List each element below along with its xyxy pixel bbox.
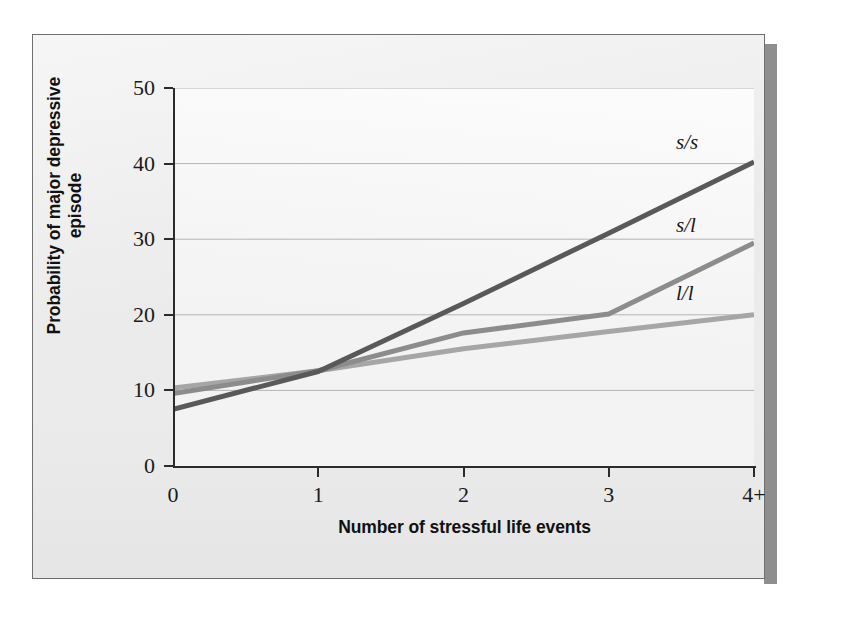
y-axis-tick-label: 10 <box>109 377 155 403</box>
y-axis-tick <box>164 389 173 391</box>
y-axis-tick <box>164 163 173 165</box>
gridlines-group <box>173 88 754 390</box>
x-axis-tick-label: 3 <box>584 482 634 508</box>
x-axis-tick-label: 4+ <box>729 482 779 508</box>
figure-panel: 01020304050 01234+ s/ss/ll/l Probability… <box>32 34 765 579</box>
series-label-l-l: l/l <box>676 281 694 306</box>
y-axis-tick-label: 50 <box>109 75 155 101</box>
x-axis-tick <box>463 468 465 477</box>
plot-area <box>173 88 754 466</box>
figure-root: 01020304050 01234+ s/ss/ll/l Probability… <box>0 0 853 626</box>
series-label-s-l: s/l <box>676 213 696 238</box>
y-axis-tick <box>164 465 173 467</box>
plot-lines-svg <box>173 88 754 466</box>
x-axis-tick <box>317 468 319 477</box>
x-axis-end-tick <box>753 468 755 477</box>
x-axis-tick-label: 2 <box>439 482 489 508</box>
y-axis-tick-label: 40 <box>109 151 155 177</box>
y-axis-tick <box>164 238 173 240</box>
series-label-s-s: s/s <box>676 130 698 155</box>
x-axis-title: Number of stressful life events <box>173 517 756 538</box>
y-axis-tick <box>164 314 173 316</box>
x-axis-line <box>173 466 756 468</box>
y-axis-tick-label: 0 <box>109 453 155 479</box>
x-axis-tick-label: 0 <box>148 482 198 508</box>
series-group <box>173 162 754 409</box>
series-line-s-l <box>173 243 754 393</box>
y-axis-tick-label: 30 <box>109 226 155 252</box>
x-axis-tick <box>608 468 610 477</box>
y-axis-tick-label: 20 <box>109 302 155 328</box>
y-axis-line <box>173 88 175 467</box>
series-line-l-l <box>173 315 754 388</box>
y-axis-top-tick <box>164 87 173 89</box>
y-axis-title: Probability of major depressive episode <box>44 56 85 356</box>
x-axis-tick-label: 1 <box>293 482 343 508</box>
